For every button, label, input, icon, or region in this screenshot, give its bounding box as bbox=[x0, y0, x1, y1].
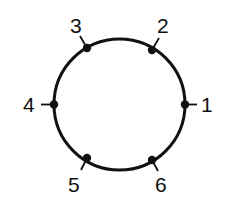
point-label: 3 bbox=[70, 14, 82, 37]
point-4: 4 bbox=[23, 93, 58, 116]
point-label: 4 bbox=[23, 93, 35, 116]
circle bbox=[54, 39, 185, 170]
point-3: 3 bbox=[70, 14, 91, 52]
point-dot bbox=[83, 154, 91, 162]
point-2: 2 bbox=[148, 14, 169, 54]
circle-diagram: 123456 bbox=[0, 0, 225, 201]
point-dot bbox=[148, 156, 156, 164]
point-6: 6 bbox=[148, 156, 167, 196]
point-dot bbox=[148, 46, 156, 54]
point-5: 5 bbox=[68, 154, 91, 196]
point-label: 6 bbox=[155, 173, 167, 196]
point-dot bbox=[50, 100, 58, 108]
point-label: 2 bbox=[157, 14, 169, 37]
point-dot bbox=[83, 44, 91, 52]
point-label: 1 bbox=[201, 93, 213, 116]
point-dot bbox=[181, 100, 189, 108]
point-label: 5 bbox=[68, 173, 80, 196]
